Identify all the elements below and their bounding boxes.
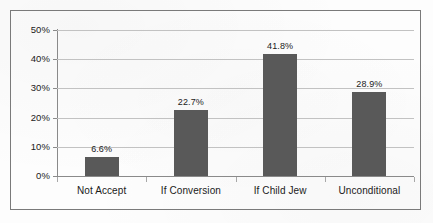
y-tick-label: 30% bbox=[4, 82, 50, 93]
x-tick-label: Unconditional bbox=[314, 185, 424, 196]
x-tick-mark bbox=[57, 177, 58, 182]
plot-area bbox=[57, 30, 414, 176]
x-tick-mark bbox=[236, 177, 237, 182]
x-tick-mark bbox=[325, 177, 326, 182]
y-tick-label-wrap: 30% bbox=[0, 82, 50, 94]
y-tick-label-wrap: 40% bbox=[0, 53, 50, 65]
bar-value-label: 41.8% bbox=[250, 41, 310, 51]
bar bbox=[85, 157, 119, 176]
y-tick-label-wrap: 20% bbox=[0, 112, 50, 124]
y-tick-label-wrap: 0% bbox=[0, 170, 50, 182]
bar bbox=[352, 92, 386, 176]
x-tick-mark bbox=[414, 177, 415, 182]
bar-value-label: 28.9% bbox=[339, 79, 399, 89]
y-tick-label: 20% bbox=[4, 112, 50, 123]
y-tick-label: 40% bbox=[4, 53, 50, 64]
bar bbox=[263, 54, 297, 176]
x-tick-mark bbox=[146, 177, 147, 182]
gridline-40 bbox=[57, 59, 414, 60]
gridline-50 bbox=[57, 30, 414, 31]
bar-chart-figure: 0%10%20%30%40%50% Not AcceptIf Conversio… bbox=[0, 0, 433, 223]
bar-value-label: 22.7% bbox=[161, 97, 221, 107]
bar-value-label: 6.6% bbox=[72, 144, 132, 154]
gridline-0 bbox=[57, 176, 414, 177]
y-tick-label: 0% bbox=[4, 170, 50, 181]
y-tick-label-wrap: 10% bbox=[0, 141, 50, 153]
y-tick-label: 50% bbox=[4, 24, 50, 35]
y-tick-label-wrap: 50% bbox=[0, 24, 50, 36]
bar bbox=[174, 110, 208, 176]
y-tick-label: 10% bbox=[4, 141, 50, 152]
